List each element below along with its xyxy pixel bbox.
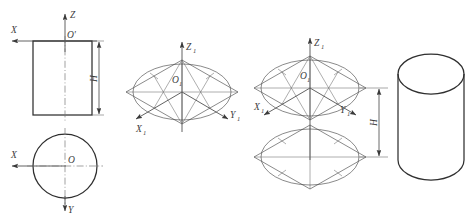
step3-bottom-tick-lower-right <box>334 170 342 176</box>
x-axis-label: X <box>10 25 18 35</box>
step3-o1-origin-label: O <box>300 71 307 81</box>
step3-height-dimension-label: H <box>369 118 379 127</box>
step2-isometric-rhombus: Z 1 X 1 Y 1 O 1 <box>126 42 240 136</box>
top-view-origin-label: O <box>68 155 75 165</box>
x1-axis-label: X <box>135 124 143 134</box>
front-view-origin-label: O' <box>67 30 77 40</box>
front-view: Z X O' H <box>10 10 104 122</box>
step3-x1-axis-line <box>264 88 310 115</box>
step3-z1-axis-label: Z <box>314 38 320 48</box>
step3-bottom-tick-upper-left <box>278 138 286 144</box>
z1-axis-subscript: 1 <box>193 47 196 54</box>
step1-orthographic-views: Z X O' H X Y <box>10 10 104 213</box>
tick-mark-upper-right <box>206 73 214 79</box>
technical-drawing-canvas: Z X O' H X Y <box>0 0 474 213</box>
step3-bottom-tick-upper-right <box>334 138 342 144</box>
step3-x1-axis-subscript: 1 <box>261 107 264 114</box>
step3-x1-axis-label: X <box>253 102 261 112</box>
z1-axis-label: Z <box>186 42 192 52</box>
step3-top-tick-left <box>278 69 286 75</box>
x1-axis-subscript: 1 <box>143 129 146 136</box>
step3-stacked-rhombi: Z 1 X 1 Y 1 O 1 <box>253 38 388 189</box>
step3-bottom-tick-lower-left <box>278 170 286 176</box>
cylinder-bottom-arc <box>398 160 464 180</box>
step3-y1-axis-subscript: 1 <box>347 110 350 117</box>
top-view-x-axis-label: X <box>10 150 18 160</box>
cylinder-top-ellipse <box>398 54 464 94</box>
y1-axis-label: Y <box>230 110 237 120</box>
o1-origin-label: O <box>172 75 179 85</box>
top-view-y-axis-label: Y <box>68 205 75 213</box>
height-dimension-label: H <box>89 74 99 83</box>
step3-bottom-rhombus-group <box>254 125 366 189</box>
tick-mark-upper-left <box>150 73 158 79</box>
x1-axis-line <box>136 92 182 119</box>
step3-z1-axis-subscript: 1 <box>321 43 324 50</box>
y1-axis-subscript: 1 <box>237 115 240 122</box>
step3-top-tick-right <box>334 69 342 75</box>
front-view-rectangle <box>33 41 92 115</box>
drawing-sheet: Z X O' H X Y <box>0 0 474 213</box>
step3-height-dimension: H <box>360 88 388 157</box>
z-axis-label: Z <box>70 10 76 20</box>
top-view: X Y O <box>10 128 103 213</box>
step4-finished-cylinder <box>398 54 464 180</box>
y1-axis-line <box>182 92 228 119</box>
